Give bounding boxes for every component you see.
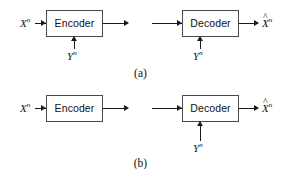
panel-a-encoder-output-arrowhead [124, 20, 129, 26]
panel-a-decoder-label: Decoder [190, 18, 230, 29]
panel-b-source-input-label: Xn [20, 103, 30, 114]
panel-a-encoder-label: Encoder [55, 18, 95, 29]
panel-b-decoder-block: Decoder [182, 95, 239, 122]
panel-a-encoder-block: Encoder [46, 10, 103, 37]
panel-a-reconstruction-label: ^Xn [262, 18, 272, 29]
panel-a-decoder-output-arrowhead [254, 20, 259, 26]
panel-a-decoder-sideinfo-label: Yn [193, 51, 203, 62]
panel-b-reconstruction-label: ^Xn [262, 103, 272, 114]
figure-panel-a: Xn Encoder Yn Decoder ^Xn Yn (a) [0, 0, 281, 84]
figure-panel-b: Xn Encoder Decoder ^Xn Yn (b) [0, 85, 281, 169]
panel-b-decoder-sideinfo-label: Yn [193, 143, 203, 154]
panel-a-encoder-sideinfo-label: Yn [67, 51, 77, 62]
panel-a-decoder-block: Decoder [182, 10, 239, 37]
panel-a-caption: (a) [0, 68, 281, 80]
panel-b-encoder-label: Encoder [55, 103, 95, 114]
panel-b-decoder-output-arrowhead [254, 105, 259, 111]
panel-b-caption: (b) [0, 158, 281, 169]
panel-a-source-input-label: Xn [20, 18, 30, 29]
panel-a-decoder-sideinfo-arrowhead [197, 36, 203, 41]
panel-b-encoder-block: Encoder [46, 95, 103, 122]
panel-b-decoder-label: Decoder [190, 103, 230, 114]
panel-b-reconstruction-hat: ^ [263, 97, 268, 107]
panel-a-reconstruction-hat: ^ [263, 12, 268, 22]
panel-a-encoder-sideinfo-arrowhead [71, 36, 77, 41]
panel-b-encoder-output-arrowhead [124, 105, 129, 111]
panel-b-decoder-sideinfo-arrowhead [197, 121, 203, 126]
